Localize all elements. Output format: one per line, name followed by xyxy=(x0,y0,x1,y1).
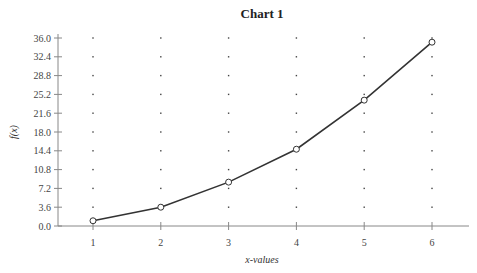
grid-dot xyxy=(228,150,229,151)
grid-dot xyxy=(431,207,432,208)
data-point-marker xyxy=(293,146,299,152)
x-tick-label: 2 xyxy=(158,237,163,248)
data-series xyxy=(90,39,435,224)
grid-dot xyxy=(228,169,229,170)
y-tick-label: 21.6 xyxy=(34,108,52,119)
chart-canvas: Chart 1 0.03.67.210.814.418.021.625.228.… xyxy=(0,0,477,273)
x-tick-label: 6 xyxy=(430,237,435,248)
grid-dot xyxy=(160,94,161,95)
grid-dot xyxy=(92,150,93,151)
grid-dot xyxy=(92,37,93,38)
y-tick-label: 25.2 xyxy=(34,89,52,100)
y-tick-label: 14.4 xyxy=(34,145,52,156)
series-line xyxy=(93,42,432,221)
y-tick-label: 18.0 xyxy=(34,127,52,138)
grid-dot xyxy=(228,113,229,114)
grid-dot xyxy=(92,169,93,170)
grid-dot xyxy=(228,75,229,76)
grid-dot xyxy=(296,113,297,114)
y-tick-label: 28.8 xyxy=(34,70,52,81)
grid-dot xyxy=(296,188,297,189)
grid-dot xyxy=(364,169,365,170)
grid-dot xyxy=(296,94,297,95)
grid-dot xyxy=(92,94,93,95)
grid-dot xyxy=(228,56,229,57)
grid-dot xyxy=(160,169,161,170)
grid-dot xyxy=(92,113,93,114)
data-point-marker xyxy=(429,39,435,45)
grid-dot xyxy=(160,188,161,189)
grid-dot xyxy=(364,75,365,76)
grid-dot xyxy=(92,188,93,189)
grid-dot xyxy=(364,37,365,38)
data-point-marker xyxy=(226,179,232,185)
grid-dot xyxy=(431,94,432,95)
grid-dot xyxy=(296,56,297,57)
grid-dot xyxy=(431,188,432,189)
y-tick-label: 7.2 xyxy=(39,183,52,194)
grid-dots xyxy=(92,37,432,208)
grid-dot xyxy=(296,207,297,208)
grid-dot xyxy=(364,131,365,132)
grid-dot xyxy=(296,37,297,38)
grid-dot xyxy=(228,188,229,189)
grid-dot xyxy=(364,188,365,189)
y-axis-label: f(x) xyxy=(8,124,20,139)
grid-dot xyxy=(228,207,229,208)
y-tick-label: 36.0 xyxy=(34,33,52,44)
grid-dot xyxy=(160,113,161,114)
grid-dot xyxy=(92,56,93,57)
y-tick-label: 10.8 xyxy=(34,164,52,175)
y-tick-label: 32.4 xyxy=(34,51,52,62)
grid-dot xyxy=(160,75,161,76)
chart-title: Chart 1 xyxy=(241,6,284,21)
grid-dot xyxy=(431,113,432,114)
y-tick-label: 0.0 xyxy=(39,221,52,232)
grid-dot xyxy=(431,37,432,38)
x-tick-label: 1 xyxy=(91,237,96,248)
data-point-marker xyxy=(90,218,96,224)
grid-dot xyxy=(160,131,161,132)
data-point-marker xyxy=(361,97,367,103)
grid-dot xyxy=(431,131,432,132)
grid-dot xyxy=(364,113,365,114)
grid-dot xyxy=(228,37,229,38)
grid-dot xyxy=(92,207,93,208)
y-tick-label: 3.6 xyxy=(39,202,52,213)
grid-dot xyxy=(364,56,365,57)
grid-dot xyxy=(228,131,229,132)
grid-dot xyxy=(296,75,297,76)
grid-dot xyxy=(296,169,297,170)
y-axis: 0.03.67.210.814.418.021.625.228.832.436.… xyxy=(34,33,63,232)
grid-dot xyxy=(431,150,432,151)
x-tick-label: 3 xyxy=(226,237,231,248)
grid-dot xyxy=(364,94,365,95)
grid-dot xyxy=(92,75,93,76)
grid-dot xyxy=(296,131,297,132)
grid-dot xyxy=(160,56,161,57)
grid-dot xyxy=(431,56,432,57)
grid-dot xyxy=(431,169,432,170)
grid-dot xyxy=(92,131,93,132)
grid-dot xyxy=(431,75,432,76)
x-axis-label: x-values xyxy=(244,254,278,265)
grid-dot xyxy=(160,37,161,38)
x-tick-label: 4 xyxy=(294,237,299,248)
data-point-marker xyxy=(158,204,164,210)
x-tick-label: 5 xyxy=(362,237,367,248)
grid-dot xyxy=(228,94,229,95)
grid-dot xyxy=(364,207,365,208)
grid-dot xyxy=(364,150,365,151)
x-axis: 123456 xyxy=(58,222,469,248)
grid-dot xyxy=(160,150,161,151)
